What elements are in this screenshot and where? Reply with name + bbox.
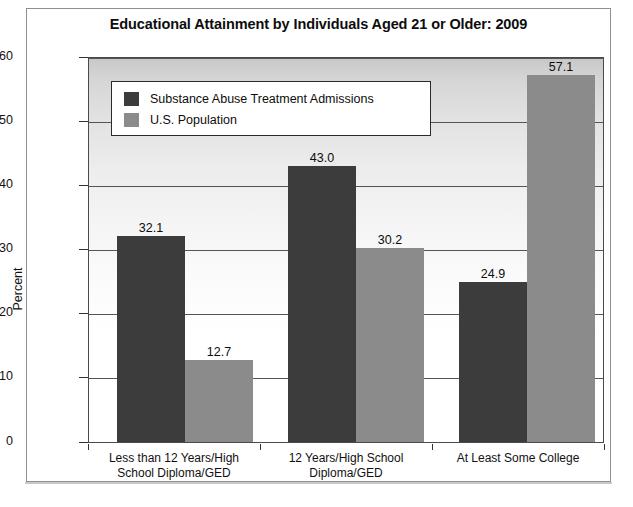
- x-category-line-2: School Diploma/GED: [88, 466, 260, 481]
- y-tick-label-30: 30: [0, 241, 13, 255]
- x-category-line-1: Less than 12 Years/High: [88, 451, 260, 466]
- bar-population-less-than-12: [185, 360, 253, 442]
- bar-population-some-college: [527, 75, 595, 442]
- bar-admissions-some-college: [459, 282, 527, 442]
- x-category-line-1: 12 Years/High School: [260, 451, 432, 466]
- chart-legend: Substance Abuse Treatment Admissions U.S…: [111, 81, 431, 136]
- x-category-label-some-college: At Least Some College: [432, 451, 604, 466]
- source-note-clipped: [28, 498, 548, 507]
- y-axis-title: Percent: [11, 244, 25, 334]
- legend-label-admissions: Substance Abuse Treatment Admissions: [150, 92, 374, 106]
- y-tick-label-0: 0: [0, 434, 13, 448]
- bar-population-12-years: [356, 248, 424, 442]
- y-tick-label-40: 40: [0, 177, 13, 191]
- y-tick-label-20: 20: [0, 305, 13, 319]
- x-category-line-2: Diploma/GED: [260, 466, 432, 481]
- legend-swatch-icon-admissions: [124, 92, 139, 106]
- y-tick-label-10: 10: [0, 369, 13, 383]
- x-category-label-12-years: 12 Years/High School Diploma/GED: [260, 451, 432, 480]
- bar-value-population-less-than-12: 12.7: [185, 345, 253, 359]
- bar-admissions-12-years: [288, 166, 356, 442]
- legend-swatch-icon-population: [124, 113, 139, 127]
- bar-value-population-12-years: 30.2: [356, 233, 424, 247]
- legend-item-admissions: Substance Abuse Treatment Admissions: [124, 88, 430, 109]
- chart-title: Educational Attainment by Individuals Ag…: [26, 16, 611, 32]
- bar-value-population-some-college: 57.1: [527, 60, 595, 74]
- y-tick-label-50: 50: [0, 113, 13, 127]
- x-category-label-less-than-12: Less than 12 Years/High School Diploma/G…: [88, 451, 260, 480]
- plot-area: 32.1 12.7 43.0 30.2 24.9 57.1 Substance …: [88, 57, 604, 443]
- gridline-60: [89, 58, 603, 59]
- legend-label-population: U.S. Population: [150, 113, 237, 127]
- x-category-line-1: At Least Some College: [432, 451, 604, 466]
- x-axis: Less than 12 Years/High School Diploma/G…: [88, 449, 604, 495]
- bar-value-admissions-less-than-12: 32.1: [117, 221, 185, 235]
- y-tick-label-60: 60: [0, 49, 13, 63]
- x-tick-mark-right: [604, 444, 605, 450]
- bar-value-admissions-some-college: 24.9: [459, 267, 527, 281]
- bar-value-admissions-12-years: 43.0: [288, 151, 356, 165]
- legend-item-population: U.S. Population: [124, 109, 430, 130]
- bar-admissions-less-than-12: [117, 236, 185, 442]
